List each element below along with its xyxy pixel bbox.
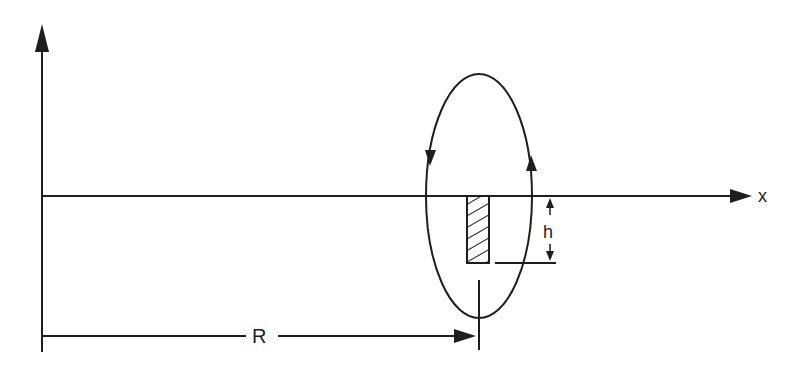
arrow-up-icon — [546, 198, 554, 208]
arrow-up-icon — [35, 24, 49, 52]
x-axis — [42, 189, 752, 203]
arrow-right-icon — [454, 329, 476, 343]
arrow-right-icon — [730, 189, 752, 203]
arrow-down-icon — [546, 251, 554, 261]
x-axis-label: x — [758, 186, 767, 206]
radius-label: R — [252, 325, 266, 347]
arrow-down-icon — [425, 150, 436, 166]
arrow-up-icon — [526, 155, 537, 171]
hatched-block — [467, 196, 489, 263]
height-label: h — [543, 222, 553, 242]
vertical-axis — [35, 24, 49, 352]
diagram-canvas: x h R — [0, 0, 796, 375]
